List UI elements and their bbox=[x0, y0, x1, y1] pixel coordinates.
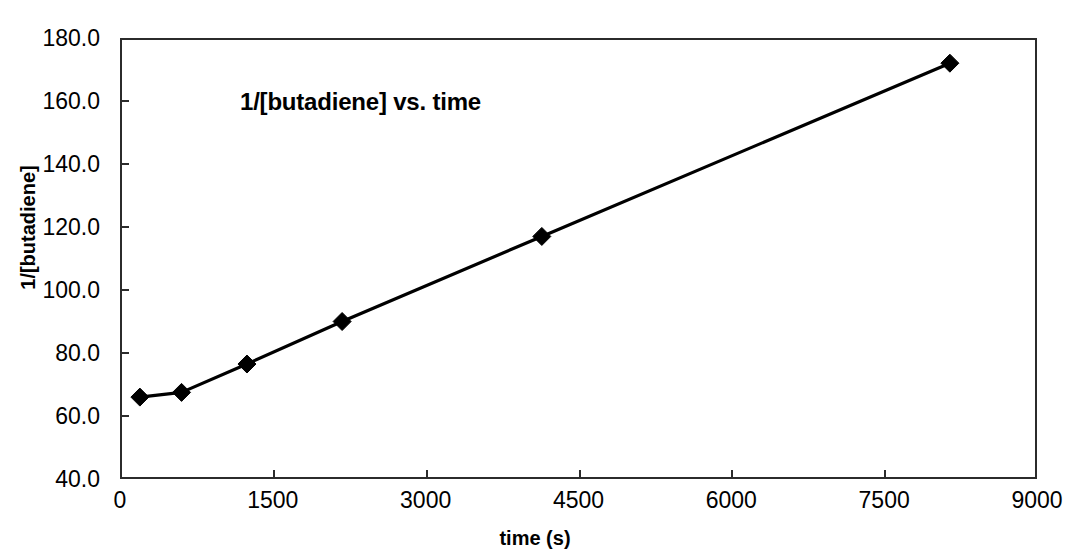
x-tick-label: 6000 bbox=[706, 487, 757, 514]
x-axis-title: time (s) bbox=[0, 527, 1070, 550]
x-tick-mark bbox=[731, 470, 733, 479]
x-tick-mark bbox=[426, 470, 428, 479]
x-tick-label: 7500 bbox=[859, 487, 910, 514]
x-tick-label: 3000 bbox=[400, 487, 451, 514]
y-tick-label: 100.0 bbox=[8, 277, 100, 304]
x-tick-mark bbox=[273, 470, 275, 479]
y-tick-label: 80.0 bbox=[8, 340, 100, 367]
y-tick-label: 180.0 bbox=[8, 25, 100, 52]
y-tick-mark bbox=[120, 226, 129, 228]
x-tick-mark bbox=[884, 470, 886, 479]
y-tick-mark bbox=[120, 100, 129, 102]
y-tick-mark bbox=[120, 163, 129, 165]
x-tick-label: 9000 bbox=[1011, 487, 1062, 514]
x-tick-mark bbox=[579, 470, 581, 479]
x-tick-label: 1500 bbox=[247, 487, 298, 514]
y-tick-label: 40.0 bbox=[8, 466, 100, 493]
y-tick-mark bbox=[120, 289, 129, 291]
y-tick-mark bbox=[120, 352, 129, 354]
y-tick-label: 140.0 bbox=[8, 151, 100, 178]
y-tick-label: 60.0 bbox=[8, 403, 100, 430]
x-tick-label: 0 bbox=[114, 487, 127, 514]
y-tick-label: 120.0 bbox=[8, 214, 100, 241]
y-tick-mark bbox=[120, 415, 129, 417]
chart-title: 1/[butadiene] vs. time bbox=[240, 88, 481, 116]
y-tick-label: 160.0 bbox=[8, 88, 100, 115]
x-tick-label: 4500 bbox=[553, 487, 604, 514]
chart-container: 1/[butadiene] vs. time 1/[butadiene] 40.… bbox=[0, 0, 1070, 559]
